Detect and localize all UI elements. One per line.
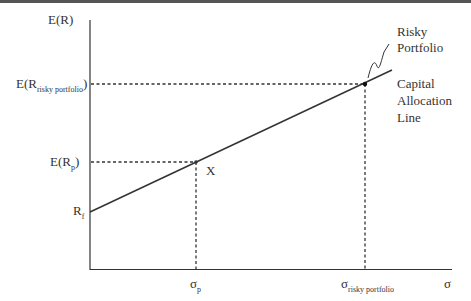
label-er-risky: E(Rrisky portfolio) [16, 76, 87, 94]
y-axis-label: E(R) [48, 12, 73, 28]
label-cal: CapitalAllocationLine [397, 75, 452, 126]
capital-allocation-line [90, 70, 392, 212]
label-er-p: E(Rp) [50, 154, 79, 172]
label-rf: Rf [73, 203, 84, 221]
risky-portfolio-point [363, 82, 367, 86]
label-x: X [206, 163, 215, 179]
point-x [194, 160, 198, 164]
x-axis-label: σ [444, 276, 451, 292]
label-risky-portfolio: RiskyPortfolio [397, 24, 443, 56]
label-sigma-risky: σrisky portfolio [341, 276, 394, 294]
label-sigma-p: σp [190, 276, 201, 294]
